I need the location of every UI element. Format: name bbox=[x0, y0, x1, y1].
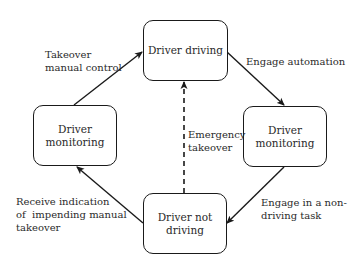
edge-label-line: of impending manual bbox=[16, 208, 127, 221]
edge-label-takeover-manual-control: Takeover manual control bbox=[45, 48, 122, 74]
edge-label-engage-non-driving-task: Engage in a non- driving task bbox=[261, 196, 347, 222]
node-driver-monitoring-right-line-1: Driver bbox=[256, 124, 315, 137]
edge-label-receive-indication: Receive indication of impending manual t… bbox=[16, 195, 127, 234]
edge-label-line: driving task bbox=[261, 209, 347, 222]
edge-label-line: takeover bbox=[188, 141, 246, 154]
edge-label-line: Engage automation bbox=[246, 55, 345, 68]
edge-label-line: Takeover bbox=[45, 48, 122, 61]
node-driver-not-driving-line-1: Driver not bbox=[158, 211, 213, 224]
node-driver-driving-line-1: Driver driving bbox=[148, 44, 223, 57]
edge-label-engage-automation: Engage automation bbox=[246, 55, 345, 68]
edge-label-line: Emergency bbox=[188, 128, 246, 141]
edge-label-emergency-takeover: Emergency takeover bbox=[188, 128, 246, 154]
node-driver-not-driving: Driver not driving bbox=[143, 193, 227, 254]
state-diagram: Driver driving Driver monitoring Driver … bbox=[0, 0, 348, 269]
node-driver-not-driving-line-2: driving bbox=[158, 224, 213, 237]
node-driver-monitoring-left-line-2: monitoring bbox=[46, 136, 105, 149]
edge-label-line: Engage in a non- bbox=[261, 196, 347, 209]
edge-label-line: manual control bbox=[45, 61, 122, 74]
edge-label-line: takeover bbox=[16, 221, 127, 234]
node-driver-monitoring-right-line-2: monitoring bbox=[256, 137, 315, 150]
node-driver-monitoring-right: Driver monitoring bbox=[243, 106, 327, 167]
edge-label-line: Receive indication bbox=[16, 195, 127, 208]
node-driver-monitoring-left-line-1: Driver bbox=[46, 123, 105, 136]
node-driver-monitoring-left: Driver monitoring bbox=[33, 105, 117, 166]
node-driver-driving: Driver driving bbox=[143, 20, 228, 81]
